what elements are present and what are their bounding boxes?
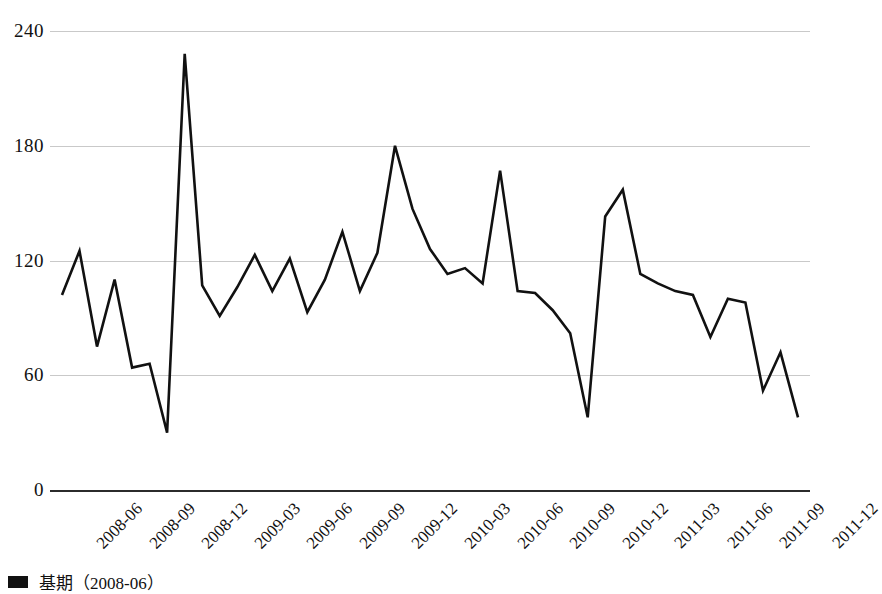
x-tick-label-2008-12: 2008-12 xyxy=(198,499,252,553)
x-tick-label-2010-09: 2010-09 xyxy=(566,499,620,553)
x-tick-label-2010-03: 2010-03 xyxy=(461,499,515,553)
x-tick-label-2011-06: 2011-06 xyxy=(723,499,777,553)
legend-swatch-icon xyxy=(8,576,28,588)
legend-label: 基期（2008-06） xyxy=(39,569,164,594)
x-tick-label-2010-12: 2010-12 xyxy=(618,499,672,553)
x-tick-label-2011-12: 2011-12 xyxy=(828,499,882,553)
x-tick-label-2008-06: 2008-06 xyxy=(93,499,147,553)
x-tick-label-2009-12: 2009-12 xyxy=(408,499,462,553)
x-tick-label-2009-09: 2009-09 xyxy=(355,499,409,553)
x-tick-label-2009-06: 2009-06 xyxy=(303,499,357,553)
x-tick-label-2010-06: 2010-06 xyxy=(513,499,567,553)
legend: 基期（2008-06） xyxy=(8,569,164,594)
x-tick-label-2009-03: 2009-03 xyxy=(250,499,304,553)
x-tick-label-2011-09: 2011-09 xyxy=(776,499,830,553)
x-tick-label-2011-03: 2011-03 xyxy=(671,499,725,553)
x-tick-label-2008-09: 2008-09 xyxy=(145,499,199,553)
